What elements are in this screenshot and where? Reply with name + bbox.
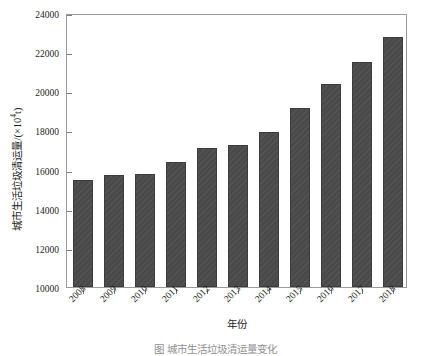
bar-slot bbox=[67, 15, 98, 287]
bar[interactable] bbox=[321, 84, 341, 287]
bar[interactable] bbox=[104, 175, 124, 287]
x-axis-title: 年份 bbox=[66, 316, 407, 331]
bar[interactable] bbox=[197, 148, 217, 287]
bar[interactable] bbox=[228, 145, 248, 287]
y-axis-title-exponent: 4 bbox=[9, 114, 18, 118]
bar-slot bbox=[191, 15, 222, 287]
bar[interactable] bbox=[73, 180, 93, 287]
y-axis-tick-label: 10000 bbox=[15, 283, 59, 295]
bar-slot bbox=[160, 15, 191, 287]
y-axis-tick-label: 16000 bbox=[15, 166, 59, 178]
y-axis-tick-mark bbox=[67, 54, 72, 55]
bar[interactable] bbox=[135, 174, 155, 288]
bar-slot bbox=[315, 15, 346, 287]
bar-slot bbox=[98, 15, 129, 287]
bar-slot bbox=[284, 15, 315, 287]
y-axis-tick-label: 24000 bbox=[15, 9, 59, 21]
bar[interactable] bbox=[166, 162, 186, 287]
y-axis-tick-mark bbox=[67, 211, 72, 212]
y-axis-tick-mark bbox=[67, 172, 72, 173]
bar[interactable] bbox=[383, 37, 403, 288]
bar[interactable] bbox=[259, 132, 279, 287]
y-axis-tick-mark bbox=[67, 93, 72, 94]
bar-slot bbox=[129, 15, 160, 287]
bar-slot bbox=[377, 15, 408, 287]
figure-caption: 图 城市生活垃圾清运量变化 bbox=[0, 343, 431, 356]
y-axis-title-unit: t) bbox=[12, 108, 23, 114]
y-axis-tick-label: 22000 bbox=[15, 48, 59, 60]
bar[interactable] bbox=[352, 62, 372, 287]
bars-container bbox=[67, 15, 406, 287]
y-axis-tick-mark bbox=[67, 15, 72, 16]
bar-slot bbox=[346, 15, 377, 287]
y-axis-tick-mark bbox=[67, 250, 72, 251]
y-axis-tick-label: 12000 bbox=[15, 244, 59, 256]
y-axis-tick-label: 18000 bbox=[15, 126, 59, 138]
y-axis-tick-mark bbox=[67, 132, 72, 133]
bar-slot bbox=[253, 15, 284, 287]
y-axis-tick-label: 20000 bbox=[15, 87, 59, 99]
y-axis-tick-label: 14000 bbox=[15, 205, 59, 217]
plot-area: 1000012000140001600018000200002200024000… bbox=[66, 14, 407, 288]
bar[interactable] bbox=[290, 108, 310, 287]
bar-slot bbox=[222, 15, 253, 287]
